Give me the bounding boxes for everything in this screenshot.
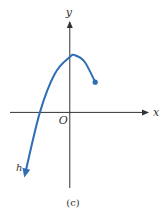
x-axis-label: x — [153, 106, 160, 119]
series-endpoint-h — [93, 80, 98, 85]
y-axis-label: y — [65, 6, 73, 19]
series-layer: h — [16, 55, 98, 178]
graph-canvas: x y O h (c) — [0, 0, 162, 217]
figure-caption: (c) — [66, 197, 80, 208]
series-arrow-h — [22, 168, 30, 178]
series-label-h: h — [16, 162, 22, 173]
origin-label: O — [59, 114, 68, 127]
